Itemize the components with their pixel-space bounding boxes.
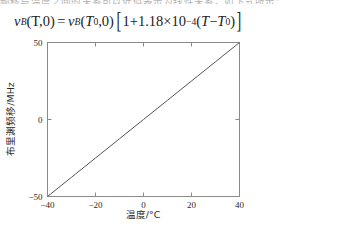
equation-delta-ref-variable: T <box>217 13 225 30</box>
x-tick-label: −20 <box>88 200 103 210</box>
x-tick-label: 20 <box>187 200 197 210</box>
equation-equals-sign: = <box>55 13 68 30</box>
chart-container: −40−2002040 −50050 温度/°C 布里渊频移/MHz <box>0 34 361 232</box>
y-tick-label: 0 <box>38 115 43 125</box>
equation-minus-sign: − <box>209 13 217 30</box>
y-axis-label: 布里渊频移/MHz <box>5 82 16 156</box>
equation-brillouin-frequency-shift: νB(T,0) = νB(T0,0)[1+1.18×10−4(T−T0)] <box>14 9 243 33</box>
equation-bracket-open: [ <box>116 12 121 31</box>
equation-delta-close: ) <box>230 13 235 30</box>
x-tick-label: 40 <box>235 200 245 210</box>
equation-rhs-arg-close: ,0) <box>98 13 114 30</box>
x-tick-label: 0 <box>141 200 146 210</box>
equation-lhs-arguments: (T,0) <box>26 13 54 30</box>
data-series-line <box>48 43 240 197</box>
equation-plus-sign: + <box>130 13 138 30</box>
x-tick-label: −40 <box>40 200 55 210</box>
x-axis-tick-labels: −40−2002040 <box>40 200 244 210</box>
equation-rhs-arg-variable: T <box>85 13 93 30</box>
equation-coefficient: 1.18 <box>138 13 163 30</box>
y-axis-tick-labels: −50050 <box>28 38 43 202</box>
clipped-top-text: 频移与温度之间的关系可以近似表示为线性关系，如下式所示： <box>0 0 361 4</box>
equation-one: 1 <box>123 13 130 30</box>
equation-delta-variable: T <box>201 13 209 30</box>
equation-times-sign: × <box>163 13 171 30</box>
x-axis-label: 温度/°C <box>126 209 161 220</box>
y-tick-label: −50 <box>28 192 43 202</box>
brillouin-shift-vs-temperature-chart: −40−2002040 −50050 温度/°C 布里渊频移/MHz <box>0 34 361 232</box>
equation-bracket-close: ] <box>237 12 242 31</box>
equation-base: 10 <box>172 13 187 30</box>
equation-exponent: −4 <box>186 16 196 27</box>
y-tick-label: 50 <box>34 38 44 48</box>
